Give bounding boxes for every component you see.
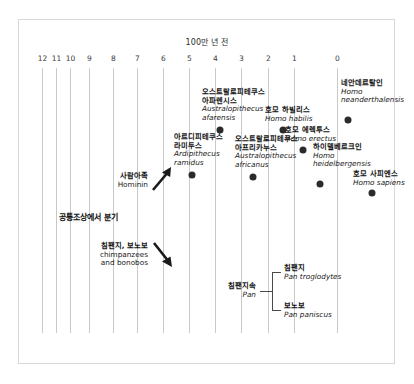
species-label-homo-erectus: 호모 에렉투스 Homo erectus (285, 126, 336, 143)
clade-connector-branch-top (272, 272, 281, 273)
data-point-homo-heidelbergensis (317, 181, 324, 188)
annotation-hominin-en: Hominin (48, 181, 148, 190)
species-sci-line2: afarensis (202, 114, 265, 123)
species-label-homo-neanderthalensis: 네안데르탈인 Homo neanderthalensis (341, 79, 404, 105)
clade-child-pan-paniscus: 보노보 Pan paniscus (284, 302, 332, 319)
tick-label-3: 3 (239, 54, 244, 63)
clade-parent-pan: 침팬지속 Pan (204, 282, 256, 299)
data-point-ardipithecus-ramidus (189, 172, 196, 179)
clade-child2-sci: Pan paniscus (284, 311, 332, 320)
species-sci-line1: Homo sapiens (353, 179, 405, 188)
clade-parent-sci: Pan (204, 291, 256, 300)
data-point-homo-erectus (300, 147, 307, 154)
data-point-homo-neanderthalensis (345, 117, 352, 124)
species-sci-line2: africanus (235, 161, 298, 170)
gridline-6-mya (163, 68, 164, 333)
tick-label-8: 8 (111, 54, 116, 63)
gridline-9-mya (89, 68, 90, 333)
gridline-7-mya (137, 68, 138, 333)
species-sci-line2: neanderthalensis (341, 96, 404, 105)
arrow-up-right-icon (150, 166, 174, 192)
tick-label-0: 0 (335, 54, 340, 63)
species-label-australopithecus-afarensis: 오스트랄로피테쿠스 아파렌시스 Australopithecus afarens… (202, 88, 265, 122)
tick-label-12: 12 (38, 54, 48, 63)
species-sci-line1: Homo habilis (265, 115, 312, 124)
clade-child-pan-troglodytes: 침팬지 Pan troglodytes (284, 264, 341, 281)
data-point-australopithecus-africanus (250, 174, 257, 181)
tick-label-10: 10 (66, 54, 76, 63)
data-point-homo-sapiens (369, 190, 376, 197)
gridline-11-mya (56, 68, 57, 333)
clade-child1-sci: Pan troglodytes (284, 273, 341, 282)
annotation-chimpanzees-bonobos: 침팬지, 보노보 chimpanzees and bonobos (48, 242, 148, 268)
tick-label-11: 11 (52, 54, 62, 63)
tick-label-6: 6 (161, 54, 166, 63)
species-sci-line2: ramidus (174, 159, 223, 168)
annotation-divergence: 공통조상에서 분기 (59, 214, 118, 223)
tick-label-7: 7 (135, 54, 140, 63)
gridline-8-mya (113, 68, 114, 333)
species-label-ardipithecus-ramidus: 아르디피테쿠스 라미두스 Ardipithecus ramidus (174, 133, 223, 167)
gridline-5-mya (189, 68, 190, 333)
clade-connector-stem (260, 291, 272, 292)
tick-label-2: 2 (266, 54, 271, 63)
tick-label-4: 4 (213, 54, 218, 63)
timeline-plot-area: 1211109876543210 오스트랄로피테쿠스 아파렌시스 Austral… (0, 0, 414, 384)
clade-connector-vertical (272, 272, 273, 310)
evolution-timeline-figure: 100만 년 전 1211109876543210 오스트랄로피테쿠스 아파렌시… (0, 0, 414, 384)
arrow-down-right-icon (151, 240, 175, 268)
pan-clade-tree: 침팬지속 Pan 침팬지 Pan troglodytes 보노보 Pan pan… (210, 268, 370, 330)
tick-label-1: 1 (292, 54, 297, 63)
gridline-10-mya (70, 68, 71, 333)
species-label-homo-sapiens: 호모 사피엔스 Homo sapiens (353, 170, 405, 187)
tick-label-5: 5 (187, 54, 192, 63)
gridline-12-mya (42, 68, 43, 333)
species-label-homo-habilis: 호모 하빌리스 Homo habilis (265, 106, 312, 123)
species-label-homo-heidelbergensis: 하이델베르크인 Homo heidelbergensis (313, 143, 371, 169)
clade-connector-branch-bottom (272, 310, 281, 311)
tick-label-9: 9 (87, 54, 92, 63)
annotation-hominin: 사람아족 Hominin (48, 172, 148, 189)
species-sci-line2: heidelbergensis (313, 160, 371, 169)
annotation-pan-en-line2: and bonobos (48, 259, 148, 268)
